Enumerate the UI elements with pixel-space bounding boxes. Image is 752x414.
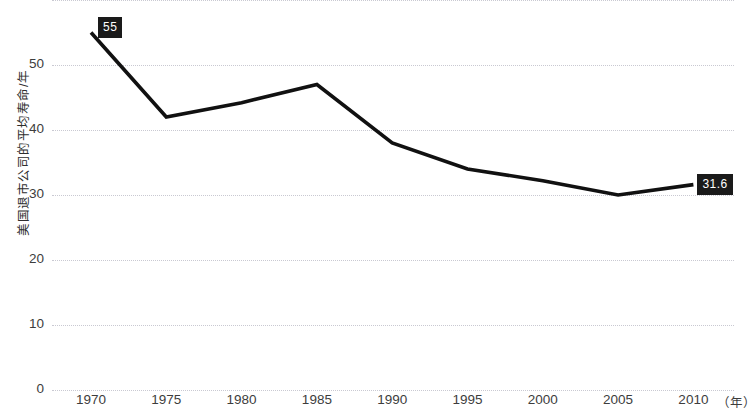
x-axis-unit-label: （年） — [717, 392, 752, 411]
x-tick-label-1980: 1980 — [227, 392, 257, 407]
y-tick-label-40: 40 — [2, 121, 44, 136]
x-tick-label-1970: 1970 — [76, 392, 106, 407]
x-tick-label-1995: 1995 — [452, 392, 482, 407]
x-tick-label-2000: 2000 — [528, 392, 558, 407]
data-point-label-55: 55 — [98, 17, 122, 38]
x-tick-label-1985: 1985 — [302, 392, 332, 407]
series-line-delisted-company-lifespan — [91, 33, 693, 196]
x-tick-label-2005: 2005 — [603, 392, 633, 407]
y-tick-label-0: 0 — [2, 381, 44, 396]
y-tick-label-20: 20 — [2, 251, 44, 266]
x-tick-label-1990: 1990 — [377, 392, 407, 407]
y-tick-label-50: 50 — [2, 56, 44, 71]
gridline-y-0 — [52, 390, 734, 391]
data-point-label-31.6: 31.6 — [697, 174, 732, 195]
series-line-layer — [52, 0, 734, 390]
plot-area — [52, 0, 734, 390]
x-tick-label-1975: 1975 — [151, 392, 181, 407]
y-tick-label-10: 10 — [2, 316, 44, 331]
x-tick-label-2010: 2010 — [678, 392, 708, 407]
y-tick-label-30: 30 — [2, 186, 44, 201]
